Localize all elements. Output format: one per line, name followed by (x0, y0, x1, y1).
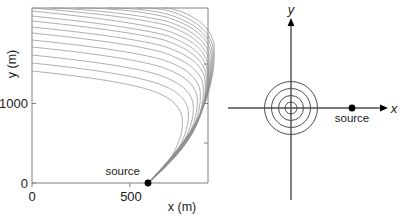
x-axis-arrowhead (380, 105, 388, 112)
ray-path (32, 47, 197, 183)
x-tick-label-500: 500 (120, 189, 142, 204)
x-tick-label-0: 0 (28, 189, 35, 204)
ray-path (32, 27, 205, 183)
y-tick-label-0: 0 (21, 176, 28, 191)
ray-path (32, 11, 208, 183)
y-axis-title: y (m) (5, 50, 19, 78)
y-tick-label-1000: 1000 (0, 96, 28, 111)
x-axis-title: x (m) (168, 200, 196, 214)
ray-path (32, 40, 200, 183)
ray-path (32, 8, 209, 183)
right-panel-group: source x y (228, 2, 398, 200)
left-panel-group: source 1000 0 0 500 x (m) y (m) (0, 8, 214, 214)
source-label-left: source (105, 165, 140, 177)
ray-paths (32, 8, 214, 183)
schematic-y-axis-label: y (287, 2, 296, 17)
ray-path (78, 8, 211, 183)
schematic-x-axis-label: x (390, 101, 398, 116)
source-label-right: source (335, 112, 370, 124)
figure-root: source 1000 0 0 500 x (m) y (m) (0, 0, 403, 219)
y-axis-arrowhead (288, 18, 295, 26)
ray-path (32, 55, 193, 183)
ray-path (32, 21, 206, 183)
ray-path (32, 16, 207, 183)
figure-svg: source 1000 0 0 500 x (m) y (m) (0, 0, 403, 219)
source-marker-right (349, 105, 356, 112)
source-marker-left (145, 180, 152, 187)
ray-path (32, 33, 203, 183)
